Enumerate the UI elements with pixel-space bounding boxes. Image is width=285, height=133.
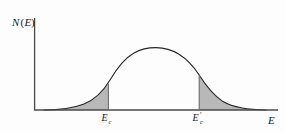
x-axis-label: E xyxy=(267,114,275,126)
tick-label-ec-prime-subscript: c xyxy=(200,118,203,125)
tick-label-ec-subscript: c xyxy=(109,118,112,125)
tick-label-ec-base: E xyxy=(101,112,108,123)
gaussian-curve xyxy=(44,48,266,110)
tick-label-ec-prime: E ′ c xyxy=(192,111,204,125)
y-axis-label-n: N xyxy=(11,16,20,28)
y-axis-label: N ( E ) xyxy=(11,16,35,29)
y-axis-label-close-paren: ) xyxy=(31,16,35,29)
tick-label-ec: E c xyxy=(101,112,112,125)
plot-canvas: N ( E ) E E c E ′ c xyxy=(0,0,285,133)
tick-label-ec-prime-base: E xyxy=(192,112,199,123)
right-tail-shaded-region xyxy=(199,75,264,111)
gaussian-distribution-figure: N ( E ) E E c E ′ c xyxy=(0,0,285,133)
